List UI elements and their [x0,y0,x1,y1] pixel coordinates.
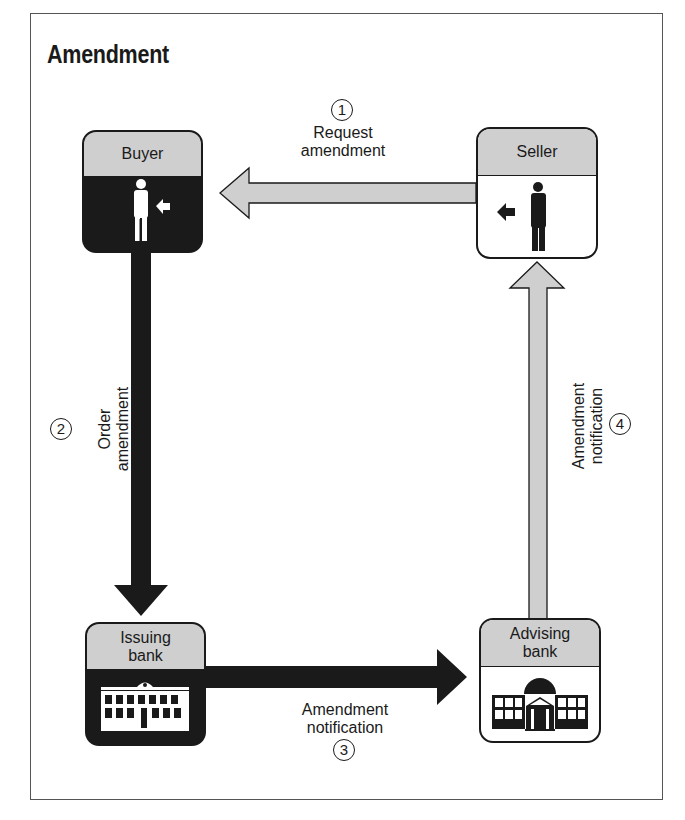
step-3-line2: notification [270,719,420,737]
seller-header: Seller [478,129,596,176]
issuing-bank-header: Issuing bank [87,624,204,670]
step-1-line1: Request [268,124,418,142]
person-icon [478,176,596,259]
issuing-bank-label-line1: Issuing [120,629,171,647]
step-4-line2: notification [588,346,606,506]
buyer-label: Buyer [122,145,164,163]
domed-bank-building-icon [481,667,599,743]
bank-building-icon [87,670,204,746]
arrow-amendment-notification-4 [510,262,564,619]
step-number-3: 3 [333,739,355,761]
seller-node: Seller [476,127,598,259]
step-1-label: Request amendment [268,124,418,160]
advising-bank-label-line2: bank [523,643,558,661]
buyer-node: Buyer [82,130,203,253]
step-3-label: Amendment notification [270,701,420,737]
step-number-4: 4 [609,413,631,435]
buyer-header: Buyer [84,132,201,177]
step-2-line2: amendment [114,359,132,499]
issuing-bank-node: Issuing bank [85,622,206,746]
seller-label: Seller [517,143,558,161]
step-2-label: Order amendment [96,359,134,499]
outgoing-arrow-icon [497,203,515,221]
advising-bank-header: Advising bank [481,620,599,667]
arrow-amendment-notification-3 [204,649,467,705]
advising-bank-label-line1: Advising [510,625,570,643]
incoming-arrow-icon [156,199,170,214]
step-4-label: Amendment notification [570,346,608,506]
step-4-line1: Amendment [570,346,588,506]
step-3-line1: Amendment [270,701,420,719]
step-number-2: 2 [50,418,72,440]
step-2-line1: Order [96,359,114,499]
issuing-bank-label-line2: bank [128,647,163,665]
step-1-line2: amendment [268,142,418,160]
step-number-1: 1 [331,99,353,121]
advising-bank-node: Advising bank [479,618,601,743]
arrow-request-amendment [220,168,476,218]
person-icon [84,177,201,253]
